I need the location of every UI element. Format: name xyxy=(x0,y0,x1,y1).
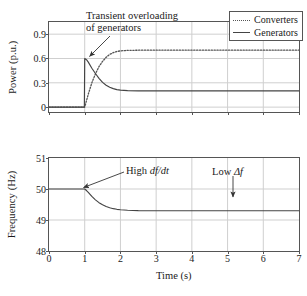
y-axis-label-frequency: Frequency (Hz) xyxy=(6,171,17,239)
x-tick-mark xyxy=(120,112,121,115)
dotted-line-icon xyxy=(233,16,250,24)
x-tick-label: 4 xyxy=(189,253,194,264)
x-tick-label: 6 xyxy=(261,253,266,264)
y-tick-mark xyxy=(46,107,49,108)
annotation-transient-line1: Transient overloading xyxy=(86,10,178,22)
solid-line-icon xyxy=(233,28,250,36)
x-tick-mark xyxy=(263,112,264,115)
annotation-transient-line2: of generators xyxy=(86,22,178,34)
annotation-dfdt-symbol: df/dt xyxy=(150,165,169,176)
x-tick-mark xyxy=(299,112,300,115)
y-tick-label: 50 xyxy=(36,184,46,195)
y-tick-label: 51 xyxy=(36,153,46,164)
x-tick-mark xyxy=(49,112,50,115)
annotation-low-delta-f: Low Δf xyxy=(212,166,243,178)
annotation-lowdf-prefix: Low xyxy=(212,166,234,177)
y-tick-mark xyxy=(46,220,49,221)
x-tick-label: 2 xyxy=(118,253,123,264)
y-tick-label: 0.9 xyxy=(34,29,47,40)
legend-item-converters: Converters xyxy=(233,14,298,26)
annotation-dfdt-prefix: High xyxy=(126,165,150,176)
y-tick-mark xyxy=(46,34,49,35)
frequency-plot-area: 4849505101234567 xyxy=(48,157,300,252)
x-tick-mark xyxy=(85,112,86,115)
x-tick-label: 0 xyxy=(47,253,52,264)
legend: Converters Generators xyxy=(229,11,303,41)
y-tick-label: 0.6 xyxy=(34,53,47,64)
series-frequency xyxy=(49,189,299,211)
y-tick-mark xyxy=(46,83,49,84)
frequency-grid-and-series xyxy=(49,158,299,251)
y-tick-label: 49 xyxy=(36,215,46,226)
y-tick-mark xyxy=(46,189,49,190)
annotation-lowdf-symbol: Δf xyxy=(234,166,243,177)
x-tick-label: 3 xyxy=(154,253,159,264)
x-tick-mark xyxy=(192,112,193,115)
y-tick-mark xyxy=(46,158,49,159)
x-axis-label-time: Time (s) xyxy=(156,270,192,281)
y-tick-label: 0.3 xyxy=(34,77,47,88)
x-tick-label: 5 xyxy=(225,253,230,264)
y-tick-label: 48 xyxy=(36,246,46,257)
x-tick-mark xyxy=(156,112,157,115)
legend-item-generators: Generators xyxy=(233,27,298,39)
y-tick-mark xyxy=(46,58,49,59)
x-tick-label: 1 xyxy=(82,253,87,264)
x-tick-mark xyxy=(228,112,229,115)
x-tick-label: 7 xyxy=(297,253,302,264)
annotation-high-dfdt: High df/dt xyxy=(126,165,169,177)
legend-label-converters: Converters xyxy=(254,14,298,26)
y-axis-label-power: Power (p.u.) xyxy=(7,41,18,94)
legend-label-generators: Generators xyxy=(254,27,298,39)
frequency-series-svg xyxy=(49,158,299,251)
annotation-transient-overloading: Transient overloading of generators xyxy=(86,10,178,34)
figure-container: Power (p.u.) 00.30.60.9 Converters Gener… xyxy=(0,0,307,296)
